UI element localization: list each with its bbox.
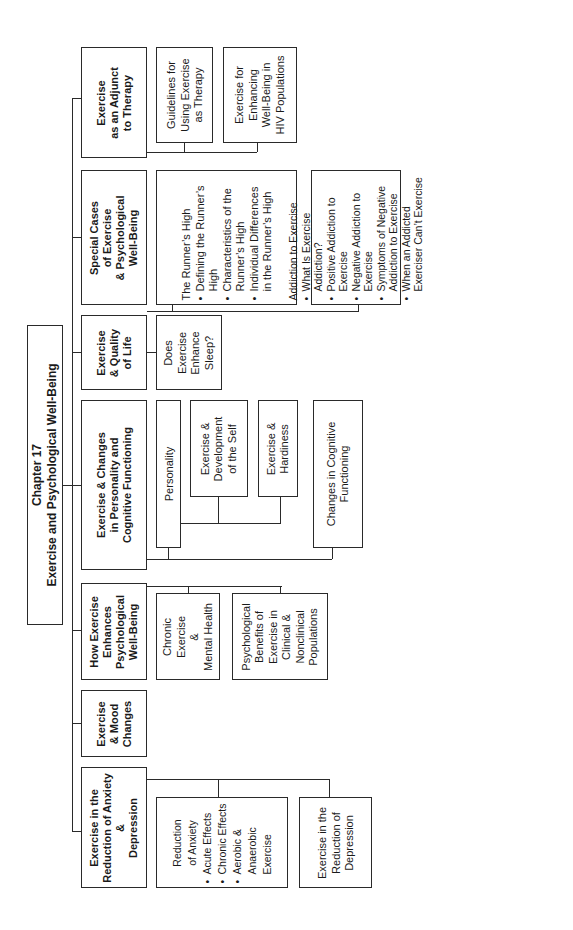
connector-anxiety [72,831,81,832]
text-line: Exercise in the [315,797,329,888]
sub-heading: The Runner’s High [179,175,193,300]
text-line: Exercise [95,690,108,757]
main-box-adjunct: Exercise as an Adjunct to Therapy [81,47,147,158]
branch-adjunct-h [147,152,257,153]
text-line: Enhancing [247,47,261,143]
connector-special [72,237,81,238]
sub-box-cognitive: Changes in Cognitive Functioning [313,400,363,548]
sub-heading: of Anxiety [185,802,200,883]
main-box-how-exercise: How Exercise Enhances Psychological Well… [81,583,147,680]
branch-quality-h [147,352,156,353]
text-line: as an Adjunct [108,47,121,158]
main-box-special-cases: Special Cases of Exercise & Psychologica… [81,170,147,305]
text-line: Psychological [240,593,254,680]
text-line: Clinical & [280,593,294,680]
connector-how [72,630,81,631]
text-line: Exercise for [233,47,247,143]
main-box-mood-changes: Exercise & Mood Changes [81,690,147,757]
text-line: Exercise & [199,400,213,497]
connector-quality [72,352,81,353]
branch-personality-v1 [218,497,219,523]
branch-personality-h [181,523,281,524]
main-box-quality-of-life: Exercise & Quality of Life [81,315,147,390]
bullet-item: What Is Exercise Addiction? [300,175,325,300]
text-line: Changes in Cognitive [325,400,339,548]
text-line: to Therapy [121,47,134,158]
title-connector [62,485,72,486]
sub-box-chronic-exercise: Chronic Exercise & Mental Health [156,593,220,680]
branch-anxiety-h [147,779,330,780]
bullet-item: Chronic Effects [215,802,230,883]
main-box-anxiety-depression: Exercise in the Reduction of Anxiety & D… [81,767,147,888]
chapter-title: Exercise and Psychological Well-Being [45,325,60,625]
text-line: Exercise [95,47,108,158]
text-line: Well-Being [127,583,140,680]
text-line: Exercise [175,593,189,680]
branch-special-h [147,311,359,312]
text-line: Psychological [114,583,127,680]
connector-changes [72,485,81,486]
text-line: as Therapy [191,47,205,143]
sub-box-addiction: Addiction to Exercise What Is Exercise A… [311,170,401,305]
bullet-item: Symptoms of Negative Addiction to Exerci… [375,175,400,300]
chapter-number: Chapter 17 [30,325,45,625]
sub-box-reduction-depression: Exercise in the Reduction of Depression [299,797,372,888]
bullet-item: Individual Differences in the Runner’s H… [247,175,274,300]
bullet-item: Aerobic & Anaerobic Exercise [230,802,275,883]
text-line: of Exercise [101,170,114,305]
text-line: Reduction of [329,797,343,888]
text-line: How Exercise [88,583,101,680]
branch-adjunct-v2 [257,143,258,152]
sub-box-development-self: Exercise & Development of the Self [190,400,248,497]
chapter-title-box: Chapter 17 Exercise and Psychological We… [27,325,63,625]
sub-box-hardiness: Exercise & Hardiness [258,400,298,497]
bullet-item: Characteristics of the Runner’s High [220,175,247,300]
sub-box-personality: Personality [156,400,181,548]
branch-changes-v2 [332,548,333,559]
branch-adjunct-v1 [184,143,185,152]
text-line: HIV Populations [274,47,288,143]
branch-how-v1 [188,586,189,593]
branch-anxiety-v1 [218,779,219,797]
branch-changes-h [147,559,332,560]
sub-heading: Addiction to Exercise [287,175,300,300]
sub-box-guidelines: Guidelines for Using Exercise as Therapy [156,47,213,143]
text-line: Cognitive Functioning [121,400,134,570]
text-line: Using Exercise [178,47,192,143]
text-line: Changes [121,690,134,757]
bullet-item: Negative Addiction to Exercise [350,175,375,300]
branch-changes-v1 [168,548,169,559]
text-line: Exercise [176,315,190,390]
text-line: Functioning [338,400,352,548]
text-line: Reduction of Anxiety [101,767,114,888]
text-line: Exercise [95,315,108,390]
text-line: Personality [162,400,176,548]
text-line: Enhances [101,583,114,680]
text-line: Hardiness [278,400,292,497]
bullet-item: Positive Addiction to Exercise [325,175,350,300]
text-line: & Quality [108,315,121,390]
connector-mood [72,723,81,724]
text-line: Well-Being [127,170,140,305]
text-line: Mental Health [202,593,216,680]
text-line: Guidelines for [164,47,178,143]
sub-box-runners-high: The Runner’s High Defining the Runner’s … [156,170,297,305]
text-line: Populations [307,593,321,680]
text-line: of the Self [226,400,240,497]
branch-personality-v2 [280,497,281,523]
text-line: Exercise in [267,593,281,680]
text-line: & [188,593,202,680]
connector-adjunct [72,98,81,99]
text-line: & Mood [108,690,121,757]
bullet-item: Defining the Runner’s High [193,175,220,300]
text-line: Chronic [161,593,175,680]
text-line: Exercise & [265,400,279,497]
sub-box-reduction-anxiety: Reduction of Anxiety Acute Effects Chron… [156,797,288,888]
text-line: Development [212,400,226,497]
text-line: Well-Being in [260,47,274,143]
branch-how-h [147,586,282,587]
sub-box-psych-benefits: Psychological Benefits of Exercise in Cl… [232,593,328,680]
text-line: Enhance [189,315,203,390]
text-line: Depression [342,797,356,888]
branch-anxiety-v2 [329,779,330,797]
